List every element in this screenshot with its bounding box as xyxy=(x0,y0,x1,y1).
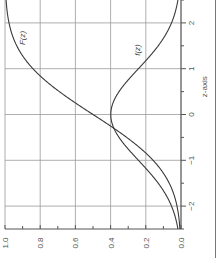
tick-label-value: 0.8 xyxy=(36,237,45,249)
tick-label-z: 2 xyxy=(187,20,196,25)
chart: z-axis −2−10120.00.20.40.60.81.0F(z)f(z) xyxy=(0,0,219,263)
tick-label-z: 1 xyxy=(187,66,196,71)
tick-label-value: 0.6 xyxy=(71,237,80,249)
tick-label-z: −1 xyxy=(187,155,196,165)
tick-label-value: 0.2 xyxy=(142,237,151,249)
tick-label-z: −2 xyxy=(187,201,196,211)
tick-label-value: 0.4 xyxy=(107,237,116,249)
series-label-cdf: F(z) xyxy=(18,31,27,46)
z-axis-label: z-axis xyxy=(200,76,209,97)
tick-label-z: 0 xyxy=(187,112,196,117)
series-label-pdf: f(z) xyxy=(133,44,142,56)
tick-label-value: 1.0 xyxy=(1,237,10,249)
labels: z-axis −2−10120.00.20.40.60.81.0F(z)f(z) xyxy=(1,20,209,248)
tick-label-value: 0.0 xyxy=(177,237,186,249)
